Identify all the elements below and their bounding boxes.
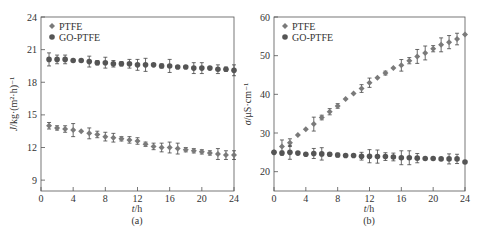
y-tick-label: 20	[260, 166, 270, 177]
y-tick-label: 60	[260, 12, 270, 23]
legend-label-go-ptfe: GO-PTFE	[59, 32, 100, 43]
data-point	[287, 140, 293, 146]
data-point	[303, 126, 309, 132]
data-point	[303, 151, 309, 157]
data-point	[135, 138, 141, 144]
data-point	[78, 58, 84, 64]
data-point	[159, 63, 165, 69]
data-point	[359, 86, 365, 92]
data-point	[167, 145, 173, 151]
data-point	[382, 70, 388, 76]
data-point	[111, 61, 117, 67]
data-point	[135, 62, 141, 68]
data-point	[374, 75, 380, 81]
data-points	[46, 53, 237, 160]
diamond-marker-icon	[282, 23, 288, 29]
x-tick-label: 24	[229, 193, 239, 204]
data-point	[46, 57, 52, 63]
data-point	[343, 96, 349, 102]
data-point	[438, 42, 444, 48]
y-axis-label: σ/μS·cm⁻¹	[242, 83, 253, 125]
data-point	[94, 131, 100, 137]
data-point	[406, 155, 412, 161]
diamond-marker-icon	[49, 23, 55, 29]
data-point	[119, 61, 125, 67]
plot-frame	[41, 17, 234, 191]
legend-label-ptfe: PTFE	[59, 21, 82, 32]
legend: PTFE GO-PTFE	[282, 21, 333, 44]
data-point	[191, 65, 197, 71]
data-point	[54, 125, 60, 131]
data-point	[422, 50, 428, 56]
data-point	[287, 150, 293, 156]
data-point	[231, 67, 237, 73]
data-point	[151, 143, 157, 149]
y-tick-label: 9	[32, 175, 37, 186]
data-point	[207, 65, 213, 71]
data-point	[54, 57, 60, 63]
x-axis-ticks: 04812162024	[272, 187, 471, 204]
data-points	[271, 31, 468, 164]
data-point	[391, 154, 397, 160]
data-point	[422, 156, 428, 162]
data-point	[183, 64, 189, 70]
y-tick-label: 15	[27, 109, 37, 120]
data-point	[86, 59, 92, 65]
data-point	[399, 155, 405, 161]
chart-panel-b: 2030405060 04812162024 PTFE GO-PTFE σ/μS…	[242, 12, 470, 228]
data-point	[359, 153, 365, 159]
data-point	[446, 39, 452, 45]
data-point	[430, 156, 436, 162]
x-tick-label: 16	[165, 193, 175, 204]
y-tick-label: 12	[27, 142, 37, 153]
data-point	[159, 145, 165, 151]
legend-label-ptfe: PTFE	[292, 21, 315, 32]
data-point	[375, 154, 381, 160]
x-tick-label: 0	[39, 193, 44, 204]
data-point	[70, 58, 76, 64]
data-point	[143, 141, 149, 147]
data-point	[454, 36, 460, 42]
x-tick-label: 20	[428, 193, 438, 204]
data-point	[183, 147, 189, 153]
data-point	[406, 58, 412, 64]
data-point	[103, 60, 109, 66]
data-point	[223, 66, 229, 72]
data-point	[127, 61, 133, 67]
circle-marker-icon	[49, 34, 55, 40]
data-point	[335, 103, 341, 109]
data-point	[215, 66, 221, 72]
legend: PTFE GO-PTFE	[49, 21, 100, 44]
y-axis-ticks: 91215182124	[27, 12, 45, 186]
data-point	[271, 150, 277, 156]
data-point	[295, 132, 301, 138]
data-point	[46, 123, 52, 129]
x-tick-label: 8	[103, 193, 108, 204]
data-point	[454, 156, 460, 162]
data-point	[62, 126, 68, 132]
legend-label-go-ptfe: GO-PTFE	[292, 32, 333, 43]
data-point	[78, 128, 84, 134]
data-point	[446, 156, 452, 162]
panel-label: (a)	[131, 215, 142, 227]
y-tick-label: 30	[260, 128, 270, 139]
data-point	[367, 153, 373, 159]
y-tick-label: 18	[27, 77, 37, 88]
panel-label: (b)	[363, 215, 375, 227]
data-point	[438, 156, 444, 162]
data-point	[390, 65, 396, 71]
x-tick-label: 24	[460, 193, 470, 204]
data-point	[414, 53, 420, 59]
data-point	[102, 134, 108, 140]
data-point	[279, 150, 285, 156]
figure: 91215182124 04812162024 PTFE GO-PTFE J/k…	[0, 0, 479, 237]
data-point	[199, 65, 205, 71]
data-point	[351, 91, 357, 97]
data-point	[94, 60, 100, 66]
data-point	[126, 137, 132, 143]
data-point	[167, 63, 173, 69]
data-point	[143, 62, 149, 68]
x-tick-label: 0	[272, 193, 277, 204]
y-tick-label: 50	[260, 50, 270, 61]
data-point	[175, 146, 181, 152]
